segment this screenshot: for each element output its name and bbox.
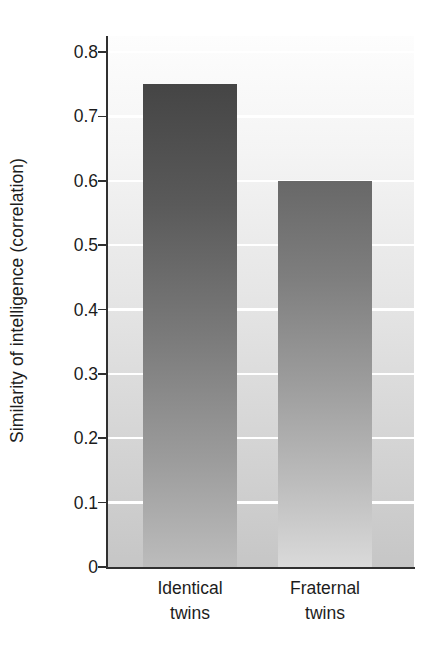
y-axis-tick-mark [98,244,107,246]
y-axis-tick-label: 0.3 [36,363,98,384]
y-axis-tick-mark [98,502,107,504]
y-axis-tick-mark [98,437,107,439]
x-axis-tick-label-line: Fraternal [245,576,405,601]
y-axis-tick-mark [98,373,107,375]
x-axis-tick-labels: IdenticaltwinsFraternaltwins [107,576,414,651]
x-axis-tick-label: Fraternaltwins [245,576,405,626]
bar [143,84,237,567]
y-axis-tick-mark [98,51,107,53]
x-axis-line [106,567,415,569]
gridline [107,51,414,53]
y-axis-tick-mark [98,566,107,568]
plot-area [107,36,414,567]
y-axis-tick-label: 0.7 [36,106,98,127]
y-axis-title-text: Similarity of intelligence (correlation) [8,157,29,442]
y-axis-title: Similarity of intelligence (correlation) [0,0,36,600]
y-axis-tick-mark [98,309,107,311]
y-axis-tick-label: 0.5 [36,235,98,256]
x-axis-tick-label-line: twins [245,601,405,626]
y-axis-tick-label: 0.6 [36,170,98,191]
y-axis-tick-mark [98,180,107,182]
bar [278,181,372,567]
y-axis-tick-mark [98,116,107,118]
y-axis-tick-labels: 00.10.20.30.40.50.60.70.8 [36,0,98,657]
y-axis-tick-label: 0 [36,557,98,578]
bar-chart-figure: Similarity of intelligence (correlation)… [0,0,437,657]
y-axis-tick-label: 0.4 [36,299,98,320]
y-axis-tick-label: 0.2 [36,428,98,449]
y-axis-tick-label: 0.8 [36,42,98,63]
y-axis-tick-label: 0.1 [36,492,98,513]
